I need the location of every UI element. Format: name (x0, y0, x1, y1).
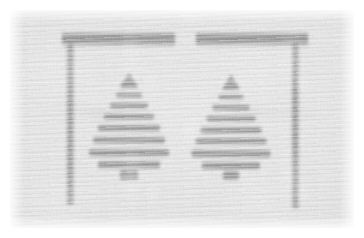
tree-left-row (116, 92, 142, 98)
tree-right-row (213, 104, 250, 111)
tree-left-row (98, 124, 160, 132)
left-post-mark (66, 40, 75, 205)
right-post-mark (291, 40, 300, 208)
tree-right-row (202, 161, 260, 170)
tree-right-row (192, 149, 271, 158)
artwork-marks (10, 10, 354, 228)
image-canvas: Degraded grayscale textile image (0, 0, 364, 238)
tree-left-row (104, 113, 154, 120)
tree-left-row (110, 102, 148, 109)
tree-right-row (207, 115, 256, 122)
tree-right-row (224, 84, 239, 90)
tree-right-trunk (223, 171, 239, 180)
tree-left-row (93, 136, 165, 144)
tree-left-row (121, 82, 137, 88)
tree-left-row (89, 148, 169, 157)
tree-left-trunk (120, 170, 138, 180)
tree-left-row (98, 160, 160, 169)
tree-right-row (201, 126, 262, 134)
tree-right-row (196, 137, 267, 145)
tree-right-row (219, 94, 244, 100)
image-title: Degraded grayscale textile image (0, 0, 1, 1)
top-bar-left-mark (62, 32, 175, 47)
textured-plate (10, 10, 354, 228)
